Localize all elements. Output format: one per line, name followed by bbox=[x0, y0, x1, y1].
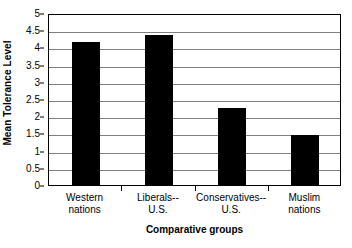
x-category-label-line: U.S. bbox=[195, 204, 268, 216]
y-axis-tick-mark bbox=[40, 151, 44, 152]
y-axis-tick-mark bbox=[40, 31, 44, 32]
x-category-label-line: U.S. bbox=[121, 204, 194, 216]
y-axis-tick-mark bbox=[40, 117, 44, 118]
y-axis-tick-mark bbox=[40, 82, 44, 83]
y-axis-tick-labels: 00.511.522.533.544.55 bbox=[16, 14, 44, 186]
y-axis-tick-label: 2.5 bbox=[26, 95, 40, 105]
y-axis-tick-mark bbox=[40, 100, 44, 101]
y-axis-tick-label: 3.5 bbox=[26, 61, 40, 71]
bar bbox=[291, 135, 319, 185]
x-category-label-line: Liberals-- bbox=[137, 192, 179, 203]
y-axis-tick-label: 4.5 bbox=[26, 26, 40, 36]
y-axis-title-text: Mean Tolerance Level bbox=[3, 40, 13, 145]
y-axis-tick-mark bbox=[40, 65, 44, 66]
y-axis-tick-mark bbox=[40, 14, 44, 15]
gridline bbox=[49, 32, 340, 33]
x-category-label-line: Western bbox=[66, 192, 103, 203]
x-category-label-line: nations bbox=[48, 204, 121, 216]
x-axis-category-labels: WesternnationsLiberals--U.S.Conservative… bbox=[48, 192, 341, 224]
bar bbox=[72, 42, 100, 185]
x-category-label-line: Muslim bbox=[289, 192, 321, 203]
x-category-label-line: Conservatives-- bbox=[196, 192, 266, 203]
x-axis-tick-mark bbox=[121, 186, 122, 191]
x-category-label: Liberals--U.S. bbox=[121, 192, 194, 216]
y-axis-title: Mean Tolerance Level bbox=[0, 0, 16, 186]
x-category-label-line: nations bbox=[268, 204, 341, 216]
y-axis-tick-mark bbox=[40, 48, 44, 49]
bar bbox=[145, 35, 173, 185]
y-axis-tick-label: 0.5 bbox=[26, 164, 40, 174]
y-axis-tick-mark bbox=[40, 186, 44, 187]
x-axis-tick-mark bbox=[195, 186, 196, 191]
x-category-label: Muslimnations bbox=[268, 192, 341, 216]
x-axis-title: Comparative groups bbox=[48, 224, 341, 236]
x-axis-tick-mark bbox=[268, 186, 269, 191]
bar bbox=[218, 108, 246, 185]
bar-chart-figure: Mean Tolerance Level 00.511.522.533.544.… bbox=[0, 0, 352, 248]
x-category-label: Conservatives--U.S. bbox=[195, 192, 268, 216]
y-axis-tick-mark bbox=[40, 168, 44, 169]
y-axis-tick-label: 1.5 bbox=[26, 129, 40, 139]
plot-area bbox=[48, 14, 341, 186]
y-axis-tick-mark bbox=[40, 134, 44, 135]
x-category-label: Westernnations bbox=[48, 192, 121, 216]
